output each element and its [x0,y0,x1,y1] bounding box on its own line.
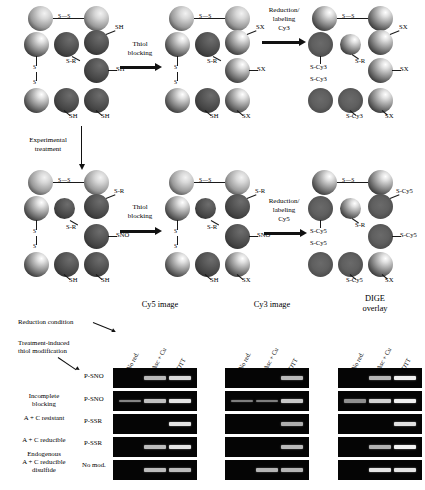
figure-root: S—S SH S S S-R SH SH SH Thiol blocking S… [0,0,425,490]
gel-band [281,445,303,449]
protein-sphere [225,170,250,195]
cy5-label: S-Cy5 [310,228,327,235]
protein-sphere [312,6,337,31]
gel-title-cy3: Cy3 image [232,300,312,310]
gel-band [394,445,416,450]
thiol-label: SH [69,113,77,120]
gel-band [144,376,166,380]
gel-lane-row [225,460,309,480]
protein-sphere [54,198,75,219]
gel-band [281,422,303,426]
cy3-label: S-Cy3 [346,113,363,120]
thiol-label: SH [210,113,218,120]
thiol-label: SH [101,277,109,284]
protein-sphere [195,198,216,219]
sulfur-label: S [174,228,177,234]
gel-band [369,376,391,380]
protein-sphere [54,32,79,57]
bond-line [247,30,257,35]
gel-lane-row [338,460,422,480]
gel-band [281,376,303,380]
pointer-line [93,322,114,331]
gel-band [344,399,366,402]
thiol-label: S-R [355,222,365,229]
gel-band [394,422,416,427]
gel-band [144,399,166,403]
protein-sphere [368,58,393,83]
thiol-label: SX [399,24,407,31]
protein-sphere [24,196,49,221]
gel-band [394,376,416,381]
mod-label-4: No mod. [82,461,106,468]
protein-sphere [225,6,250,31]
thiol-label: SH [101,113,109,120]
protein-sphere [368,170,393,195]
gel-lane-row [338,391,422,411]
gel-lane-row [225,437,309,457]
arrow-reduction-labeling-cy5 [264,229,308,238]
disulfide-label: S—S [342,13,355,19]
disulfide-label: S—S [342,177,355,183]
gel-band [369,445,391,449]
protein-sphere [84,252,109,277]
protein-sphere [165,88,190,113]
thiol-label: S-R [66,58,76,65]
mod-label-0: P-SNO [84,372,104,379]
bond-line [247,194,257,199]
protein-sphere [368,6,393,31]
sulfur-label: S [174,79,177,85]
arrow-thiol-blocking-2 [120,227,162,236]
protein-sphere [24,88,49,113]
cy5-label: S-Cy5 [396,188,413,195]
protein-sphere [340,34,361,55]
row-label-1: Incomplete blocking [8,392,80,408]
protein-sphere [308,32,333,57]
panel-bottom-3: S—S S-Cy5 S-Cy5 S-R S-Cy5 S-Cy5 S-Cy5 SX [306,168,424,288]
bond-line [390,194,400,199]
gel-band [369,399,391,403]
protein-sphere [225,58,250,83]
thiol-label: SH [210,277,218,284]
thiol-label: S-R [114,188,124,195]
pointer-line [58,357,77,370]
protein-sphere [84,6,109,31]
protein-sphere [308,88,333,113]
protein-sphere [368,88,393,113]
thiol-label: SX [385,113,393,120]
gel-panel-cy5 [113,368,197,483]
thiol-label: SX [257,66,265,73]
gel-band [144,468,166,472]
sulfur-label: S [174,64,177,70]
gel-lane-row [113,460,197,480]
protein-sphere [368,252,393,277]
thiol-label: S-R [355,58,365,65]
pointer-head [75,366,81,372]
cy3-label: S-Cy3 [310,64,327,71]
gel-band [281,399,303,403]
protein-sphere [165,196,190,221]
protein-sphere [195,32,220,57]
gel-title-cy5: Cy5 image [120,300,200,310]
annotation-reduction-condition: Reduction condition [18,318,73,326]
thiol-label: S-R [66,224,76,231]
gel-band [394,468,416,473]
thiol-label: SX [385,277,393,284]
protein-sphere [169,170,194,195]
gel-lane-row [113,391,197,411]
arrow-thiol-blocking-1 [120,63,162,72]
protein-sphere [165,32,190,57]
protein-sphere [54,252,79,277]
gel-band [281,468,303,472]
protein-sphere [225,252,250,277]
thiol-label: SX [242,113,250,120]
arrow-label-thiol-blocking: Thiol blocking [122,40,158,58]
arrow-label-thiol-blocking-2: Thiol blocking [121,203,159,221]
bond-line [106,194,116,199]
gel-band [169,376,191,380]
gel-band [256,468,278,472]
protein-sphere [84,58,109,83]
row-label-2: A + C resistant [8,414,80,422]
protein-sphere [312,170,337,195]
gel-band [369,468,391,473]
disulfide-label: S—S [199,13,212,19]
